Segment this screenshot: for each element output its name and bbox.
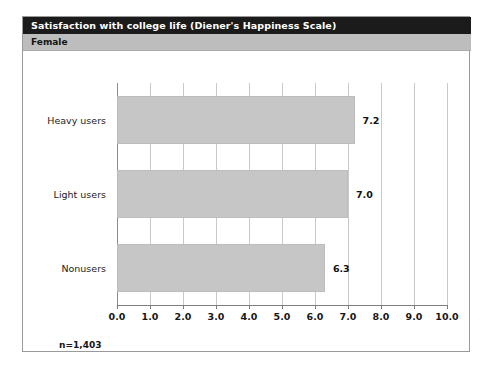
- chart-subtitle-bar: Female: [23, 34, 471, 51]
- tick-mark: [282, 305, 283, 309]
- chart-title-bar: Satisfaction with college life (Diener's…: [23, 17, 471, 34]
- bar-row: Heavy users7.2: [117, 96, 447, 144]
- tick-mark: [216, 305, 217, 309]
- tick-mark: [249, 305, 250, 309]
- tick-mark: [183, 305, 184, 309]
- tick-mark: [150, 305, 151, 309]
- tick-mark: [117, 305, 118, 309]
- sample-size-note: n=1,403: [59, 340, 101, 350]
- plot-region: Heavy users7.2Light users7.0Nonusers6.3 …: [23, 52, 471, 352]
- category-label-light-users: Light users: [54, 189, 106, 200]
- bar-heavy-users: [117, 96, 355, 144]
- chart-figure: Satisfaction with college life (Diener's…: [22, 16, 470, 352]
- bar-value-label: 7.0: [356, 189, 373, 200]
- tick-label-10.0: 10.0: [435, 311, 458, 322]
- tick-label-5.0: 5.0: [274, 311, 291, 322]
- gridline-10.0: [447, 83, 448, 305]
- bar-nonusers: [117, 244, 325, 292]
- tick-label-9.0: 9.0: [406, 311, 423, 322]
- bar-value-label: 7.2: [363, 115, 380, 126]
- plot-area: Heavy users7.2Light users7.0Nonusers6.3: [117, 83, 447, 305]
- tick-label-1.0: 1.0: [142, 311, 159, 322]
- tick-label-3.0: 3.0: [208, 311, 225, 322]
- bar-row: Nonusers6.3: [117, 244, 447, 292]
- tick-label-6.0: 6.0: [307, 311, 324, 322]
- category-label-heavy-users: Heavy users: [47, 115, 106, 126]
- tick-label-8.0: 8.0: [373, 311, 390, 322]
- bar-light-users: [117, 170, 348, 218]
- chart-subtitle: Female: [31, 37, 68, 47]
- tick-label-4.0: 4.0: [241, 311, 258, 322]
- tick-mark: [381, 305, 382, 309]
- category-label-nonusers: Nonusers: [61, 263, 106, 274]
- tick-mark: [348, 305, 349, 309]
- tick-label-0.0: 0.0: [109, 311, 126, 322]
- bar-value-label: 6.3: [333, 263, 350, 274]
- bar-row: Light users7.0: [117, 170, 447, 218]
- tick-label-2.0: 2.0: [175, 311, 192, 322]
- chart-title: Satisfaction with college life (Diener's…: [31, 20, 336, 31]
- tick-mark: [414, 305, 415, 309]
- tick-mark: [447, 305, 448, 309]
- tick-mark: [315, 305, 316, 309]
- tick-label-7.0: 7.0: [340, 311, 357, 322]
